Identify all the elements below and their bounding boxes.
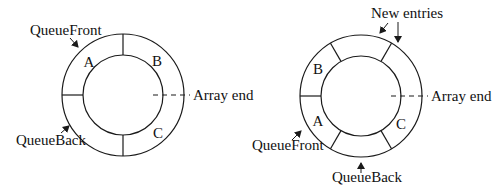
left-queue-front-label: QueueFront bbox=[30, 22, 102, 38]
new-entries-arrow-diagonal-icon bbox=[380, 23, 388, 33]
new-entries-label: New entries bbox=[371, 5, 443, 21]
left-slot-c: C bbox=[153, 125, 163, 141]
right-inner-circle bbox=[321, 56, 401, 136]
left-array-end-label: Array end bbox=[193, 87, 254, 103]
right-spoke-60 bbox=[381, 43, 392, 61]
right-spoke-300 bbox=[381, 131, 392, 149]
left-queue-ring: A B C QueueFront QueueBack Array end bbox=[16, 22, 254, 156]
left-queue-front-arrow-icon bbox=[70, 38, 78, 47]
right-slot-c: C bbox=[396, 116, 406, 132]
right-slot-a: A bbox=[313, 113, 324, 129]
right-slot-b: B bbox=[313, 61, 323, 77]
right-spoke-240 bbox=[331, 131, 342, 149]
right-queue-ring: B A C New entries QueueFront QueueBack A… bbox=[252, 5, 492, 185]
right-spoke-120 bbox=[331, 43, 342, 61]
left-slot-b: B bbox=[152, 53, 162, 69]
right-array-end-label: Array end bbox=[431, 88, 492, 104]
right-queue-back-label: QueueBack bbox=[332, 169, 402, 185]
right-queue-front-label: QueueFront bbox=[252, 137, 324, 153]
left-queue-back-label: QueueBack bbox=[16, 132, 86, 148]
left-slot-a: A bbox=[84, 54, 95, 70]
circular-queue-diagram: A B C QueueFront QueueBack Array end B A… bbox=[0, 0, 495, 193]
